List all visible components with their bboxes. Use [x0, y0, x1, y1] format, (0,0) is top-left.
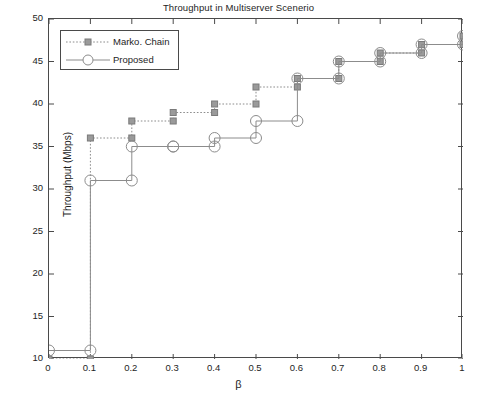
datapoint-marko-chain-2-step: [170, 118, 176, 124]
x-tick-label: 0.2: [116, 362, 146, 373]
y-tick-label: 50: [17, 12, 43, 23]
y-tick-label: 40: [17, 97, 43, 108]
legend-entry: Proposed: [61, 51, 180, 69]
y-axis-title: Throughput (Mbps): [62, 105, 73, 245]
datapoint-marko-chain-1: [87, 135, 93, 141]
datapoint-marko-chain-2: [129, 118, 135, 124]
x-tick-label: 0.4: [199, 362, 229, 373]
series-line-proposed: [49, 36, 463, 351]
y-tick-label: 35: [17, 140, 43, 151]
datapoint-marko-chain-1-step: [129, 135, 135, 141]
y-tick-label: 30: [17, 182, 43, 193]
datapoint-marko-chain-3-step: [212, 110, 218, 116]
legend-label-proposed: Proposed: [113, 54, 154, 65]
tick-marks-group: [49, 19, 463, 359]
chart-legend: Marko. Chain Proposed: [60, 30, 179, 70]
plot-svg: [49, 19, 463, 359]
legend-label-marko-chain: Marko. Chain: [113, 36, 170, 47]
x-tick-label: 0.5: [240, 362, 270, 373]
legend-entry: Marko. Chain: [61, 33, 180, 51]
x-tick-label: 0.6: [281, 362, 311, 373]
legend-marker-proposed: [65, 51, 111, 69]
x-tick-label: 1: [447, 362, 477, 373]
chart-title: Throughput in Multiserver Scenerio: [0, 2, 477, 13]
data-series-group: [49, 31, 463, 360]
datapoint-marko-chain-5: [253, 84, 259, 90]
figure-canvas: Throughput in Multiserver Scenerio Throu…: [0, 0, 477, 400]
x-tick-label: 0: [33, 362, 63, 373]
y-tick-label: 45: [17, 55, 43, 66]
legend-marker-marko-chain: [65, 33, 111, 51]
y-tick-label: 20: [17, 267, 43, 278]
datapoint-marko-chain-3: [170, 110, 176, 116]
datapoint-marko-chain-4-step: [253, 101, 259, 107]
x-tick-label: 0.3: [157, 362, 187, 373]
x-tick-label: 0.8: [364, 362, 394, 373]
y-tick-label: 15: [17, 310, 43, 321]
x-axis-title: β: [0, 378, 477, 390]
x-tick-label: 0.1: [74, 362, 104, 373]
x-tick-label: 0.7: [323, 362, 353, 373]
datapoint-marko-chain-4: [212, 101, 218, 107]
y-tick-label: 25: [17, 225, 43, 236]
x-tick-label: 0.9: [406, 362, 436, 373]
